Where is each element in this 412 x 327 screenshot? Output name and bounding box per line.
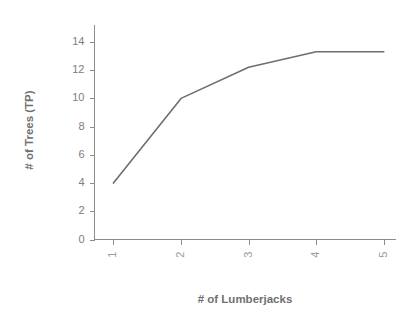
x-tick-labels: 12345 <box>106 252 389 258</box>
axis-group <box>95 25 397 240</box>
chart-figure: 02468101214 12345 # of Lumberjacks # of … <box>0 0 412 327</box>
x-axis-title: # of Lumberjacks <box>198 293 293 305</box>
y-tick-label: 12 <box>72 63 84 75</box>
x-tick-label: 5 <box>377 252 389 258</box>
y-tick-label: 10 <box>72 91 84 103</box>
y-tick-label: 0 <box>78 233 84 245</box>
y-tick-marks <box>90 43 95 241</box>
x-tick-label: 1 <box>106 252 118 258</box>
y-tick-label: 6 <box>78 148 84 160</box>
y-axis-title: # of Trees (TP) <box>23 90 35 169</box>
x-tick-label: 3 <box>242 252 254 258</box>
y-tick-label: 14 <box>72 35 84 47</box>
y-tick-label: 4 <box>78 176 84 188</box>
y-tick-label: 8 <box>78 120 84 132</box>
line-chart-canvas: 02468101214 12345 # of Lumberjacks # of … <box>0 0 412 327</box>
data-series-line <box>113 52 383 183</box>
x-tick-label: 4 <box>309 252 321 258</box>
y-tick-labels: 02468101214 <box>72 35 84 245</box>
x-tick-marks <box>114 240 385 245</box>
x-tick-label: 2 <box>174 252 186 258</box>
y-tick-label: 2 <box>78 204 84 216</box>
